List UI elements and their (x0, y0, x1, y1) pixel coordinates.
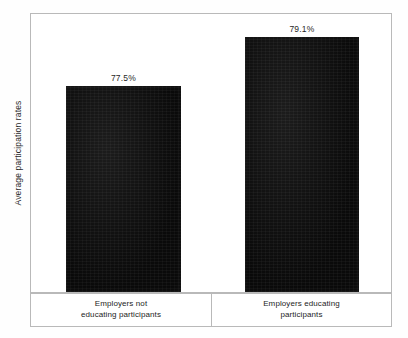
category-label-text: Employers educating participants (263, 299, 340, 320)
category-label-line-2: participants (280, 310, 322, 319)
bar-chart: Average participation rates 77.5% 79.1% … (0, 0, 408, 338)
category-label-line-1: Employers not (95, 299, 147, 308)
category-label-employers-educating: Employers educating participants (212, 294, 391, 326)
plot-frame: 77.5% 79.1% (30, 13, 392, 293)
bar-value-label-1: 77.5% (66, 74, 181, 83)
bar-employers-not-educating (66, 86, 181, 292)
category-label-employers-not-educating: Employers not educating participants (31, 294, 212, 326)
bar-value-label-2: 79.1% (245, 25, 359, 34)
category-label-text: Employers not educating participants (81, 299, 161, 320)
bar-employers-educating (245, 37, 359, 292)
y-axis-title: Average participation rates (14, 43, 23, 263)
category-label-line-1: Employers educating (263, 299, 340, 308)
category-label-line-2: educating participants (81, 310, 161, 319)
category-label-row: Employers not educating participants Emp… (30, 293, 392, 327)
plot-area: 77.5% 79.1% (31, 14, 391, 292)
